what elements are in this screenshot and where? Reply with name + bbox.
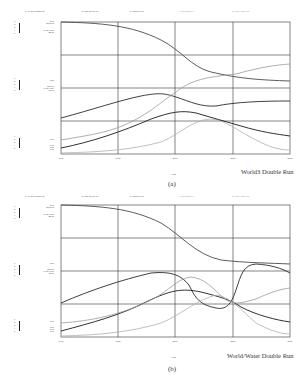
xtick: 2000: [173, 157, 178, 159]
legend-item-3: 3: food pc 98: [130, 10, 144, 13]
ylabel-bot-b: 0.000.000.000.00: [24, 320, 54, 332]
legend-item-4: 4: population 1: [178, 195, 194, 198]
run-label-a: World3 Double Run: [241, 168, 294, 175]
axis-key-bar: [19, 208, 20, 218]
legend-item-5: 5: ppoll index 11: [232, 195, 249, 198]
series-2-line: [61, 264, 290, 308]
plot-area-b: [61, 205, 291, 338]
xtick: 1950: [116, 157, 121, 159]
legend-b: 1: ui ns h mtapt 11 2: ind out pc 40 3: …: [0, 195, 307, 203]
series-2-line: [61, 94, 290, 118]
legend-item-3: 3: food pc 98: [130, 195, 144, 198]
caption-b: (b): [168, 365, 176, 373]
legend-item-2: 2: ind out pc 40: [82, 10, 98, 13]
legend-item-2: 2: ind out pc 40: [82, 195, 98, 198]
xtick: 2000: [173, 340, 178, 342]
xtick: 1950: [116, 340, 121, 342]
ylabel-top-b: 1.001000.001.60e+01032.00: [24, 204, 54, 217]
series-3-line: [61, 290, 290, 331]
plot-area-a: [61, 22, 291, 155]
series-5-line: [61, 112, 290, 148]
xtick: 2050: [231, 157, 236, 159]
caption-a: (a): [168, 180, 176, 188]
axis-key-bar: [19, 265, 20, 275]
legend-item-1: 1: ui ns h mtapt 11: [25, 195, 45, 198]
xtick: 2100: [288, 157, 293, 159]
ylabel-bot-a: 0.000.000.000.00: [24, 138, 54, 150]
ylabel-top-a: 1.001000.001.60e+01032.00: [24, 20, 54, 33]
legend-item-4: 4: population 1: [178, 10, 194, 13]
series-4-line: [61, 119, 290, 153]
series-5-line: [61, 295, 290, 336]
axis-key-bar: [19, 321, 20, 331]
ylabel-mid-b: 0.50500.008.00e+00916.00: [24, 262, 54, 274]
x-axis-title: Years: [171, 173, 176, 175]
xtick: 1900: [59, 157, 64, 159]
xtick: 2100: [288, 340, 293, 342]
legend-item-1: 1: ui ns h mtapt 11: [25, 10, 45, 13]
legend-item-5: 5: ppoll index 11: [232, 10, 249, 13]
ylabel-mid-a: 0.50500.008.00e+00916.00: [24, 79, 54, 91]
legend-a: 1: ui ns h mtapt 11 2: ind out pc 40 3: …: [0, 10, 307, 18]
axis-key-bar: [19, 138, 20, 148]
xtick: 2050: [231, 340, 236, 342]
x-axis-title: Years: [171, 356, 176, 358]
series-1-line: [61, 22, 290, 81]
axis-key-bar: [19, 23, 20, 33]
xtick: 1900: [59, 340, 64, 342]
axis-key-bar: [19, 80, 20, 90]
series-1-line: [61, 205, 290, 264]
run-label-b: World/Water Double Run: [227, 352, 293, 359]
